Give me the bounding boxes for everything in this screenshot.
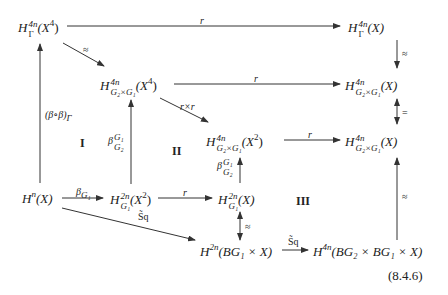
label-bottom-beta: βG₁ — [76, 187, 91, 197]
node-bottom-left: Hn(X) — [22, 192, 53, 205]
node-lowest-left: H2n(BG₁ × X) — [200, 245, 272, 258]
label-bottom-r: r — [183, 188, 187, 198]
label-beta-up1: βG₁G₂ — [108, 132, 124, 152]
label-mid1-r: r — [254, 74, 258, 84]
label-approx-diag: ≈ — [83, 45, 89, 55]
label-beta-comp: (β∘β)Γ — [45, 110, 72, 120]
region-III: III — [296, 194, 310, 209]
node-bottom-center: H2nG₁(X) — [218, 191, 255, 211]
node-top-right: H4nΓ(X) — [348, 19, 384, 39]
node-mid1-left: H4nG₂×G₁(X4) — [100, 77, 157, 97]
label-rxr: r×r — [180, 102, 195, 112]
node-mid1-right: H4nG₂×G₁(X) — [345, 77, 397, 97]
node-base: H — [18, 20, 27, 35]
arrow-sq-diag — [62, 208, 195, 240]
node-bottom-mid: H2nG₁(X2) — [110, 191, 151, 211]
label-sq-diag: S̃q — [138, 212, 149, 222]
label-beta-up2: βG₁G₂ — [217, 157, 233, 177]
node-lowest-right: H4n(BG₂ × BG₁ × X) — [313, 245, 422, 258]
node-mid2-center: H4nG₂×G₁(X2) — [206, 133, 263, 153]
label-center-approx: ≈ — [245, 222, 251, 232]
label-mid2-r: r — [308, 130, 312, 140]
region-II: II — [172, 144, 181, 159]
label-right-approx-top: ≈ — [402, 49, 408, 59]
node-top-left: H4nΓ(X4) — [18, 19, 59, 39]
node-mid2-right: H4nG₂×G₁(X) — [345, 133, 397, 153]
label-top-r: r — [200, 16, 204, 26]
label-right-approx-bottom: ≈ — [402, 192, 408, 202]
equation-number: (8.4.6) — [388, 268, 423, 284]
region-I: I — [80, 136, 85, 151]
label-sq-bottom: S̃q — [288, 237, 299, 247]
label-right-eq: = — [402, 108, 408, 118]
